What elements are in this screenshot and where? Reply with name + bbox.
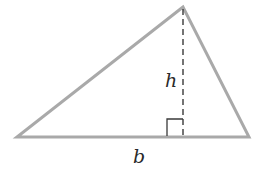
height-label: h	[165, 69, 177, 91]
right-angle-marker	[167, 119, 183, 136]
base-label: b	[133, 145, 145, 167]
triangle-diagram: h b	[0, 0, 266, 172]
triangle	[17, 7, 249, 137]
